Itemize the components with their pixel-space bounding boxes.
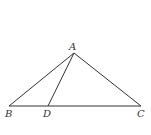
- label-d: D: [42, 108, 51, 119]
- segment-ac: [74, 53, 141, 106]
- segment-ab: [9, 53, 74, 106]
- label-a: A: [68, 41, 76, 52]
- triangle-diagram: A B D C: [0, 0, 151, 135]
- label-c: C: [137, 108, 145, 119]
- segment-ad: [48, 53, 74, 106]
- label-b: B: [4, 108, 12, 119]
